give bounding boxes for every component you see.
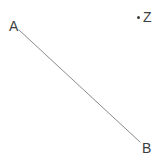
point-label-z: Z [143, 10, 152, 24]
point-marker-z-dot [137, 16, 140, 19]
point-label-a: A [9, 19, 18, 33]
figure-svg [0, 0, 165, 164]
segment-ab-line [19, 30, 140, 142]
point-label-b: B [142, 141, 151, 155]
geometry-figure-canvas: A B Z [0, 0, 165, 164]
